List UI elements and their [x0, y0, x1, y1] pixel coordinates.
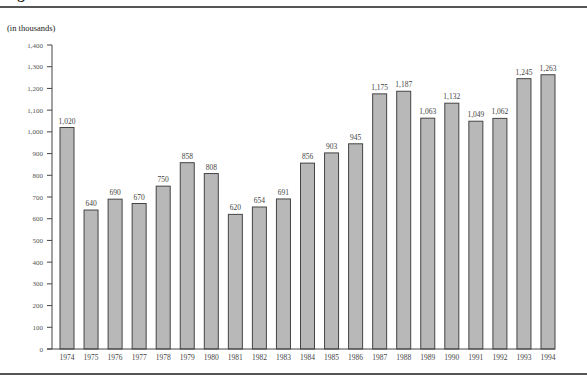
bar-1983	[276, 199, 290, 349]
bar-1974	[60, 128, 74, 349]
y-tick-label: 600	[33, 215, 44, 223]
bar-value-label: 670	[134, 193, 146, 202]
bar-value-label: 1,020	[59, 117, 76, 126]
y-tick-label: 1,100	[27, 107, 43, 115]
x-tick-label: 1978	[156, 353, 171, 362]
x-axis: 1974197519761977197819791980198119821983…	[47, 349, 556, 362]
bar-1986	[349, 144, 363, 349]
x-tick-label: 1989	[420, 353, 435, 362]
bar-value-label: 654	[254, 196, 266, 205]
x-tick-label: 1974	[60, 353, 75, 362]
x-tick-label: 1993	[516, 353, 531, 362]
bar-value-label: 691	[278, 188, 290, 197]
bar-1980	[204, 174, 218, 349]
bottom-rule	[0, 373, 587, 375]
x-tick-label: 1991	[468, 353, 483, 362]
y-tick-label: 1,400	[27, 42, 43, 50]
bar-value-label: 1,187	[395, 80, 412, 89]
y-axis: 01002003004005006007008009001,0001,1001,…	[27, 42, 52, 354]
x-tick-label: 1983	[276, 353, 291, 362]
bar-1993	[517, 79, 531, 349]
x-tick-label: 1981	[228, 353, 243, 362]
y-tick-label: 800	[33, 172, 44, 180]
bar-value-label: 856	[302, 152, 314, 161]
x-tick-label: 1975	[84, 353, 99, 362]
y-tick-label: 0	[40, 346, 44, 354]
y-tick-label: 100	[33, 324, 44, 332]
bar-1984	[301, 163, 315, 349]
x-tick-label: 1979	[180, 353, 195, 362]
bar-1982	[252, 207, 266, 349]
bar-1978	[156, 186, 170, 349]
y-tick-label: 1,300	[27, 63, 43, 71]
bar-1979	[180, 163, 194, 349]
y-tick-label: 500	[33, 237, 44, 245]
bar-value-label: 1,132	[443, 92, 460, 101]
bar-1975	[84, 210, 98, 349]
bar-value-label: 1,263	[540, 64, 557, 73]
y-tick-label: 400	[33, 259, 44, 267]
bar-value-label: 1,175	[371, 83, 388, 92]
x-tick-label: 1985	[324, 353, 339, 362]
x-tick-label: 1977	[132, 353, 147, 362]
x-tick-label: 1987	[372, 353, 387, 362]
y-tick-label: 1,200	[27, 85, 43, 93]
bar-1988	[397, 91, 411, 349]
bar-1989	[421, 118, 435, 349]
bar-1976	[108, 199, 122, 349]
bar-value-label: 1,063	[419, 107, 436, 116]
x-tick-label: 1994	[541, 353, 556, 362]
bars: 1,02064069067075085880862065469185690394…	[59, 64, 557, 349]
bar-1981	[228, 214, 242, 349]
bar-value-label: 620	[230, 203, 242, 212]
y-tick-label: 1,000	[27, 128, 43, 136]
bar-1992	[493, 118, 507, 349]
x-tick-label: 1992	[492, 353, 507, 362]
bar-value-label: 903	[326, 142, 338, 151]
x-tick-label: 1988	[396, 353, 411, 362]
y-tick-label: 700	[33, 194, 44, 202]
bar-value-label: 1,062	[491, 107, 508, 116]
bar-value-label: 808	[206, 163, 218, 172]
bar-value-label: 640	[85, 199, 97, 208]
bar-1990	[445, 103, 459, 349]
bar-value-label: 945	[350, 133, 362, 142]
bar-value-label: 1,245	[516, 68, 533, 77]
y-tick-label: 900	[33, 150, 44, 158]
bar-1994	[541, 75, 555, 349]
x-tick-label: 1984	[300, 353, 315, 362]
bar-1987	[373, 94, 387, 349]
x-tick-label: 1982	[252, 353, 267, 362]
x-tick-label: 1986	[348, 353, 363, 362]
y-tick-label: 300	[33, 280, 44, 288]
x-tick-label: 1980	[204, 353, 219, 362]
bar-1985	[325, 153, 339, 349]
bar-value-label: 750	[158, 175, 170, 184]
bar-chart: 01002003004005006007008009001,0001,1001,…	[0, 0, 587, 376]
y-tick-label: 200	[33, 302, 44, 310]
x-tick-label: 1990	[444, 353, 459, 362]
bar-value-label: 690	[109, 188, 121, 197]
bar-value-label: 1,049	[467, 110, 484, 119]
bar-value-label: 858	[182, 152, 194, 161]
x-tick-label: 1976	[108, 353, 123, 362]
bar-1977	[132, 204, 146, 349]
bar-1991	[469, 121, 483, 349]
